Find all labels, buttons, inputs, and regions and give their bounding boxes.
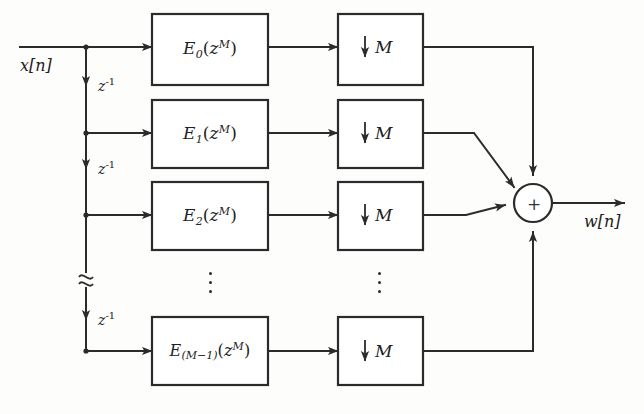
delay-chain-wire [86,47,152,351]
poly-sub-2: 2 [196,215,203,228]
poly-sub-0: 0 [196,48,203,61]
poly-base-2: E [183,205,196,225]
downsampler-factor-text-3: M [375,341,392,361]
poly-sup-1: M [219,123,230,136]
input-signal-label: x[n] [20,56,52,75]
downsampler-factor-0: M [375,37,392,57]
wire-down3-to-adder [423,232,533,351]
poly-close-1: ) [230,123,237,143]
poly-sub-1: 1 [196,133,203,146]
downsampler-factor-2: M [375,205,392,225]
poly-base-0: E [183,38,196,58]
poly-var-2: z [209,205,218,225]
downsampler-factor-3: M [375,341,392,361]
delay-label-1: z-1 [98,76,115,94]
ellipsis-downsampler-column [378,272,382,299]
polyphase-label-1: E1(zM) [152,123,268,146]
delay-chain-break-icon [79,275,93,285]
output-signal-text: w[n] [584,212,620,231]
ellipsis-polyphase-column [209,272,213,299]
poly-sup-0: M [219,38,230,51]
polyphase-label-2: E2(zM) [152,205,268,228]
figure-canvas: x[n] w[n] z-1 z-1 z-1 E0(zM) E1(zM) E2(z… [0,0,644,414]
poly-var-3: z [224,341,233,360]
downsampler-factor-text-1: M [375,123,392,143]
polyphase-label-0: E0(zM) [152,38,268,61]
poly-sub-3: (M−1) [181,349,217,362]
poly-base-3: E [170,341,182,360]
downsampler-factor-1: M [375,123,392,143]
downsampler-factor-text-2: M [375,205,392,225]
poly-base-1: E [183,123,196,143]
delay-label-2: z-1 [98,159,115,177]
polyphase-label-3: E(M−1)(zM) [152,340,268,362]
block-diagram-svg [0,0,644,414]
input-signal-text: x[n] [20,56,52,75]
delay-exponent-1: -1 [105,76,115,87]
adder-plus-symbol: + [527,194,541,214]
wire-down2-to-adder [423,205,505,215]
downsampler-factor-text-0: M [375,37,392,57]
delay-exponent-3: -1 [105,310,115,321]
poly-var-1: z [209,123,218,143]
poly-var-0: z [209,38,218,58]
poly-close-0: ) [230,38,237,58]
output-signal-label: w[n] [584,212,620,231]
poly-sup-2: M [219,205,230,218]
poly-close-3: ) [244,341,250,360]
delay-exponent-2: -1 [105,159,115,170]
poly-sup-3: M [233,340,244,353]
delay-label-3: z-1 [98,310,115,328]
wire-down0-to-adder [423,47,533,175]
adder-plus-text: + [527,194,541,214]
wire-down1-to-adder [423,133,514,187]
poly-close-2: ) [230,205,237,225]
